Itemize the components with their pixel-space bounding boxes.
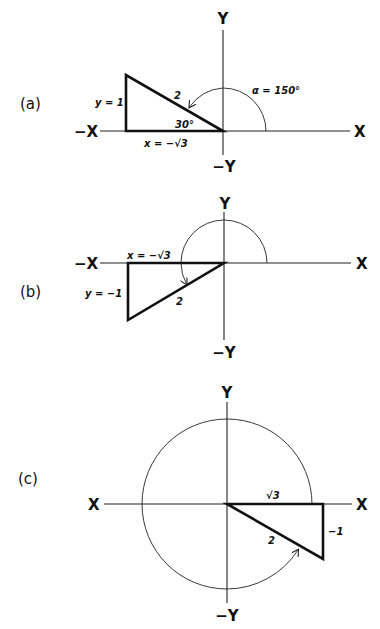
hypotenuse-label: 2 (268, 535, 275, 546)
ref-angle-label: 30° (175, 119, 194, 130)
panel-b: (b) Y −Y X −X x = −√3 y = −1 2 (20, 195, 368, 362)
reference-triangle (128, 263, 224, 320)
panel-label-a: (a) (20, 95, 41, 113)
adjacent-label: x = −√3 (143, 138, 188, 149)
neg-y-label: −Y (215, 607, 240, 625)
neg-x-label: −X (74, 123, 99, 141)
hypotenuse-label: 2 (176, 296, 183, 307)
pos-x-label: X (356, 255, 368, 273)
pos-y-label: Y (219, 195, 232, 213)
neg-y-label: −Y (212, 158, 237, 176)
panel-a: (a) Y −Y X −X 2 y = 1 x = −√3 30° α = 15… (20, 10, 366, 176)
reference-triangle (227, 504, 323, 559)
neg-x-label: −X (74, 255, 99, 273)
pos-x-label: X (356, 496, 368, 514)
adjacent-label: √3 (266, 490, 280, 501)
opposite-label: −1 (328, 526, 343, 537)
pos-y-label: Y (217, 10, 230, 28)
panel-label-b: (b) (20, 283, 41, 301)
pos-x-label: X (354, 123, 366, 141)
opposite-label: y = 1 (95, 97, 124, 108)
neg-y-label: −Y (212, 344, 237, 362)
panel-label-c: (c) (18, 470, 38, 488)
adjacent-label: x = −√3 (126, 250, 171, 261)
neg-x-label: X (88, 496, 100, 514)
hypotenuse-label: 2 (174, 90, 181, 101)
opposite-label: y = −1 (85, 288, 122, 299)
alpha-label: α = 150° (252, 85, 300, 96)
trig-angle-diagram: (a) Y −Y X −X 2 y = 1 x = −√3 30° α = 15… (0, 0, 380, 629)
pos-y-label: Y (221, 384, 234, 402)
panel-c: (c) Y −Y X X √3 −1 2 (18, 384, 368, 625)
